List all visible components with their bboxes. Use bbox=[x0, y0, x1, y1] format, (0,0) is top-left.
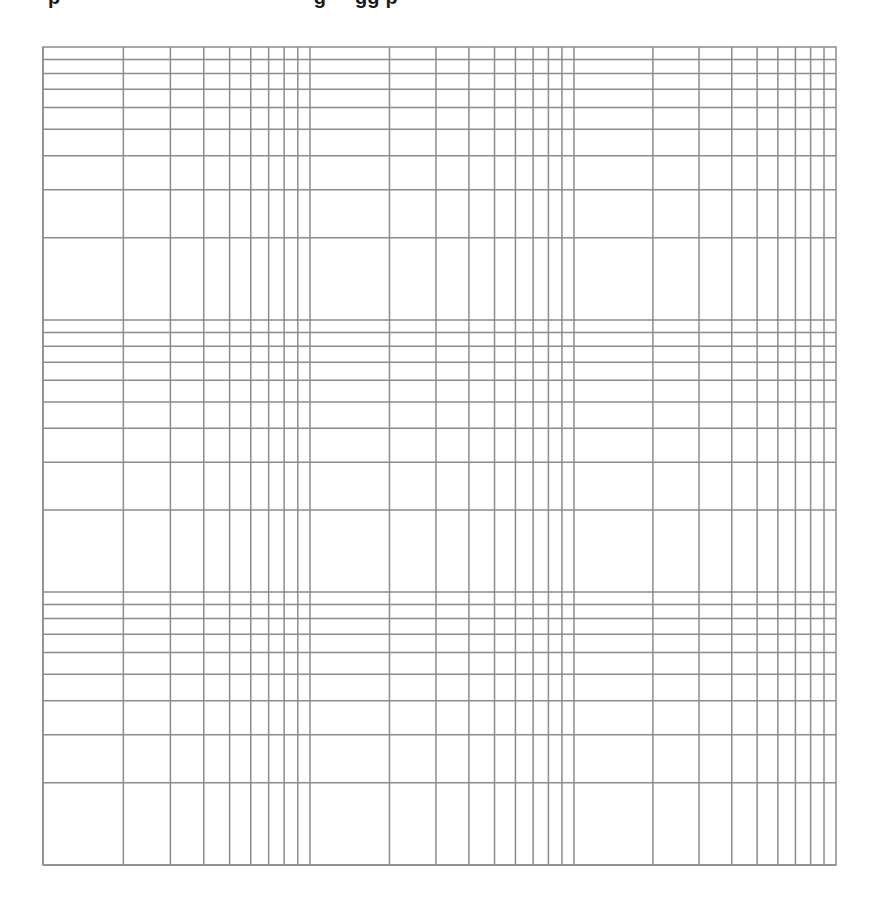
log-log-grid bbox=[0, 0, 880, 908]
plot-border bbox=[43, 47, 836, 865]
grid-lines bbox=[43, 47, 836, 865]
